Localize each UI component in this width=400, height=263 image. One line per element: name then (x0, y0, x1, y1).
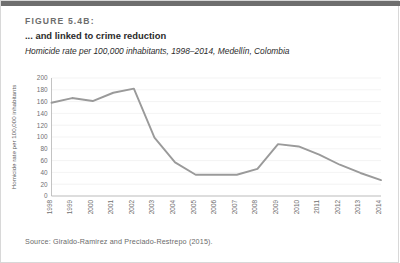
chart-series-group (52, 89, 382, 180)
y-axis-tick-label: 60 (40, 157, 48, 164)
y-axis-tick-labels: 020406080100120140160180200 (37, 74, 48, 199)
figure-number: FIGURE 5.4B: (25, 15, 375, 27)
x-axis-tick-labels: 1998199920002001200220032004200520062007… (46, 200, 383, 215)
chart-area: 020406080100120140160180200 199819992000… (1, 63, 400, 235)
x-axis-tick-label: 1999 (66, 200, 73, 215)
y-axis-tick-label: 20 (40, 181, 48, 188)
x-axis-tick-label: 2008 (251, 200, 258, 215)
figure-subtitle: Homicide rate per 100,000 inhabitants, 1… (25, 45, 375, 57)
x-axis-tick-label: 2004 (169, 200, 176, 215)
y-axis-tick-label: 140 (37, 110, 48, 117)
y-axis-title: Homicide rate per 100,000 inhabitants (10, 85, 17, 190)
x-axis-tick-label: 2006 (210, 200, 217, 215)
x-axis-tick-label: 2002 (128, 200, 135, 215)
chart-gridlines (52, 78, 382, 196)
y-axis-tick-label: 120 (37, 122, 48, 129)
y-axis-tick-label: 160 (37, 98, 48, 105)
y-axis-tick-label: 200 (37, 74, 48, 81)
x-axis-tick-label: 2009 (272, 200, 279, 215)
y-axis-tick-label: 40 (40, 169, 48, 176)
x-axis-tick-label: 2011 (313, 200, 320, 214)
y-axis-tick-label: 80 (40, 145, 48, 152)
y-axis-tick-label: 100 (37, 133, 48, 140)
x-axis-tick-label: 2014 (375, 200, 382, 215)
top-rule-divider (1, 1, 400, 6)
source-note: Source: Giraldo-Ramirez and Preciado-Res… (25, 237, 213, 246)
y-axis-tick-label: 0 (44, 192, 48, 199)
x-axis-tick-label: 2013 (354, 200, 361, 215)
x-axis-tick-label: 2003 (148, 200, 155, 215)
x-axis-tick-label: 2001 (107, 200, 114, 215)
x-axis-tick-label: 2012 (334, 200, 341, 215)
page-title: ... and linked to crime reduction (25, 29, 375, 42)
line-chart: 020406080100120140160180200 199819992000… (1, 63, 400, 235)
series-line-homicide-rate (52, 89, 382, 180)
x-axis-tick-label: 1998 (46, 200, 53, 215)
x-axis-tick-label: 2000 (87, 200, 94, 215)
x-axis-tick-label: 2005 (190, 200, 197, 215)
figure-header: FIGURE 5.4B: ... and linked to crime red… (25, 15, 375, 57)
y-axis-tick-label: 180 (37, 86, 48, 93)
x-axis-tick-label: 2007 (231, 200, 238, 215)
x-axis-tick-label: 2010 (293, 200, 300, 215)
